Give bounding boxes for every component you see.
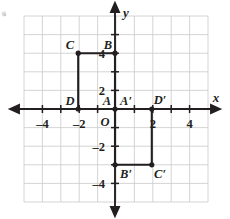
point-label-A-prime: A′ <box>119 94 132 108</box>
y-tick-label--4: –4 <box>92 177 106 191</box>
point-label-D-prime: D′ <box>153 93 167 107</box>
y-axis-arrow-up <box>111 3 119 12</box>
vertex-dot-B <box>112 51 117 56</box>
vertex-dot-D <box>76 106 81 111</box>
x-axis-arrow-right <box>211 105 220 113</box>
y-tick-label--2: –2 <box>92 140 106 154</box>
point-label-D: D <box>64 94 74 108</box>
x-tick-label--4: –4 <box>35 117 49 131</box>
vertex-dot-C <box>76 51 81 56</box>
point-label-A: A <box>102 94 111 108</box>
point-label-B-prime: B′ <box>119 167 132 181</box>
rectangle-A-prime-B-prime-C-prime-D-prime <box>115 109 152 165</box>
point-label-C-prime: C′ <box>154 167 166 181</box>
x-tick-label-2: 2 <box>150 117 156 131</box>
x-tick-label-4: 4 <box>186 117 193 131</box>
origin-label: O <box>100 115 109 129</box>
point-label-C: C <box>66 38 75 52</box>
vertex-dot-D-prime <box>149 106 154 111</box>
vertex-dot-A <box>112 106 117 111</box>
vertex-dot-B-prime <box>112 162 117 167</box>
point-label-B: B <box>103 38 112 52</box>
scan-speck <box>2 12 7 17</box>
x-axis-label: x <box>212 90 220 105</box>
y-axis-arrow-down <box>111 207 119 216</box>
x-tick-label--2: –2 <box>72 117 86 131</box>
coordinate-plane-figure: –4 –2 2 4 4 2 –2 –4 O y x A B C D A′ B′ … <box>0 0 230 219</box>
y-axis-label: y <box>121 5 129 20</box>
x-axis-arrow-left <box>10 105 19 113</box>
